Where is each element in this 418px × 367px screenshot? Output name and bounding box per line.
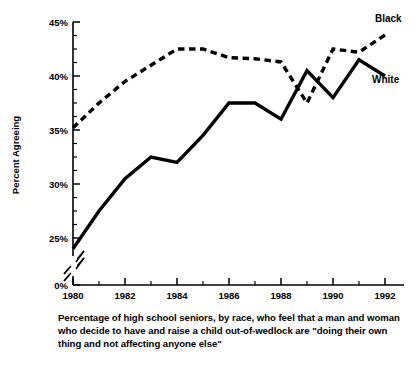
y-tick-label: 30% — [49, 179, 69, 190]
x-tick-label: 1980 — [62, 290, 83, 301]
series-line-white — [73, 60, 385, 249]
line-chart: 0%25%30%35%40%45% 1980198219841986198819… — [0, 0, 418, 310]
y-axis-tick-labels: 0%25%30%35%40%45% — [49, 17, 69, 291]
y-tick-label: 45% — [49, 17, 69, 28]
y-axis-title: Percent Agreeing — [10, 116, 21, 195]
series-line-black — [73, 35, 385, 128]
chart-figure: 0%25%30%35%40%45% 1980198219841986198819… — [0, 0, 418, 367]
y-tick-label: 40% — [49, 71, 69, 82]
y-tick-label: 0% — [54, 280, 68, 291]
x-tick-label: 1990 — [322, 290, 343, 301]
series-label-white: White — [372, 74, 400, 85]
x-tick-label: 1988 — [270, 290, 291, 301]
series-inline-labels: BlackWhite — [372, 13, 402, 85]
x-axis-tick-labels: 1980198219841986198819901992 — [62, 290, 395, 301]
y-axis-break-marker — [64, 251, 84, 281]
figure-caption: Percentage of high school seniors, by ra… — [58, 311, 410, 351]
x-axis-ticks — [73, 278, 385, 285]
x-tick-label: 1984 — [166, 290, 188, 301]
x-tick-label: 1982 — [114, 290, 135, 301]
x-tick-label: 1992 — [374, 290, 395, 301]
y-tick-label: 25% — [49, 233, 69, 244]
y-tick-label: 35% — [49, 125, 69, 136]
x-tick-label: 1986 — [218, 290, 239, 301]
series-label-black: Black — [375, 13, 402, 24]
data-series-group — [73, 35, 385, 249]
